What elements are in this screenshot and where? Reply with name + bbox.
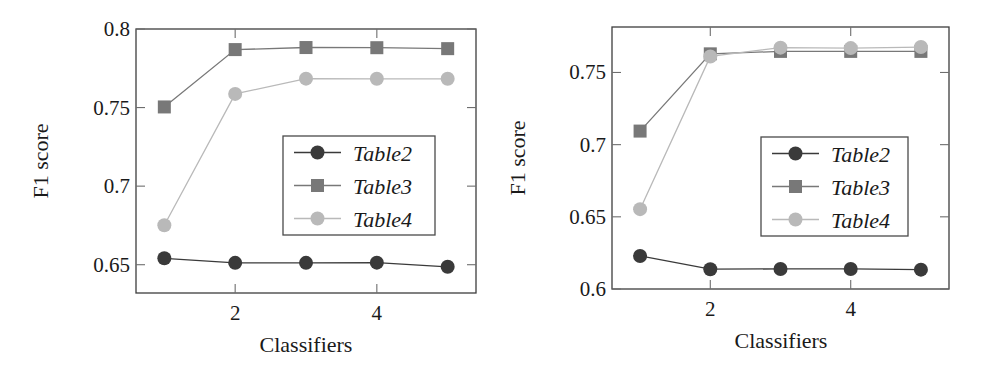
right-legend: Table2Table3Table4 bbox=[761, 137, 908, 236]
data-point-table4 bbox=[703, 49, 717, 63]
left-x-axis-title: Classifiers bbox=[260, 332, 353, 357]
y-tick-label: 0.75 bbox=[569, 60, 606, 84]
left-chart-svg: 0.650.70.750.8 24 Table2Table3Table4 Cla… bbox=[0, 0, 493, 377]
data-point-table2 bbox=[157, 251, 171, 265]
chart-panel-left: 0.650.70.750.8 24 Table2Table3Table4 Cla… bbox=[0, 0, 493, 377]
legend-label-table2: Table2 bbox=[353, 141, 412, 166]
data-point-table3 bbox=[300, 41, 313, 54]
y-tick-label: 0.7 bbox=[104, 174, 130, 198]
legend-marker-table3 bbox=[789, 180, 802, 193]
x-tick-label: 2 bbox=[705, 297, 716, 321]
x-tick-label: 4 bbox=[372, 301, 383, 325]
data-point-table3 bbox=[370, 41, 383, 54]
legend-label-table3: Table3 bbox=[353, 174, 412, 199]
data-point-table4 bbox=[774, 41, 788, 55]
data-point-table3 bbox=[441, 42, 454, 55]
legend-label-table4: Table4 bbox=[353, 207, 412, 232]
data-point-table4 bbox=[914, 40, 928, 54]
data-point-table3 bbox=[229, 43, 242, 56]
y-tick-label: 0.65 bbox=[93, 253, 130, 277]
data-point-table2 bbox=[703, 262, 717, 276]
right-x-axis-title: Classifiers bbox=[735, 328, 828, 353]
legend-marker-table4 bbox=[311, 212, 325, 226]
y-tick-label: 0.75 bbox=[93, 96, 130, 120]
chart-panel-right: 0.60.650.70.75 24 Table2Table3Table4 Cla… bbox=[493, 0, 986, 377]
series-line-table3 bbox=[640, 51, 921, 131]
data-point-table4 bbox=[228, 87, 242, 101]
data-point-table2 bbox=[844, 262, 858, 276]
x-tick-label: 4 bbox=[845, 297, 856, 321]
y-tick-label: 0.6 bbox=[580, 277, 606, 301]
legend-marker-table2 bbox=[789, 147, 803, 161]
y-tick-label: 0.7 bbox=[580, 133, 606, 157]
data-point-table3 bbox=[158, 100, 171, 113]
legend-label-table3: Table3 bbox=[831, 175, 890, 200]
legend-label-table2: Table2 bbox=[831, 142, 890, 167]
data-point-table4 bbox=[370, 72, 384, 86]
data-point-table4 bbox=[157, 218, 171, 232]
data-point-table2 bbox=[441, 260, 455, 274]
right-y-axis-title: F1 score bbox=[505, 120, 530, 195]
y-tick-label: 0.65 bbox=[569, 205, 606, 229]
legend-marker-table4 bbox=[789, 213, 803, 227]
legend-marker-table3 bbox=[311, 179, 324, 192]
data-point-table2 bbox=[228, 256, 242, 270]
left-y-axis-title: F1 score bbox=[28, 123, 53, 198]
data-point-table4 bbox=[633, 202, 647, 216]
data-point-table2 bbox=[774, 262, 788, 276]
data-point-table2 bbox=[633, 249, 647, 263]
data-point-table2 bbox=[914, 263, 928, 277]
data-point-table2 bbox=[370, 256, 384, 270]
data-point-table4 bbox=[844, 41, 858, 55]
right-chart-svg: 0.60.650.70.75 24 Table2Table3Table4 Cla… bbox=[493, 0, 986, 377]
legend-label-table4: Table4 bbox=[831, 208, 890, 233]
data-point-table3 bbox=[634, 125, 647, 138]
data-point-table2 bbox=[299, 256, 313, 270]
data-point-table4 bbox=[299, 72, 313, 86]
x-tick-label: 2 bbox=[230, 301, 241, 325]
y-tick-label: 0.8 bbox=[104, 17, 130, 41]
figure-root: 0.650.70.750.8 24 Table2Table3Table4 Cla… bbox=[0, 0, 986, 377]
legend-marker-table2 bbox=[311, 146, 325, 160]
data-point-table4 bbox=[441, 72, 455, 86]
left-legend: Table2Table3Table4 bbox=[283, 136, 435, 235]
